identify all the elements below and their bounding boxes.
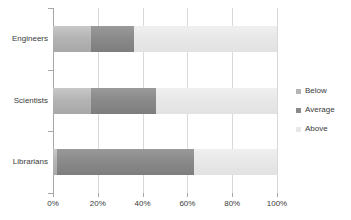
legend-swatch-icon xyxy=(296,108,301,113)
y-axis-tick xyxy=(48,70,53,71)
x-axis-label: 80% xyxy=(224,199,240,208)
category-label-scientists: Scientists xyxy=(14,96,48,106)
x-axis-labels: 0%20%40%60%80%100% xyxy=(53,199,277,213)
x-axis-tick xyxy=(98,193,99,197)
x-axis-tick xyxy=(232,193,233,197)
legend-item-below[interactable]: Below xyxy=(296,84,351,98)
x-axis-label: 60% xyxy=(179,199,195,208)
bar-segment-below xyxy=(53,26,91,52)
x-axis-tick xyxy=(143,193,144,197)
x-axis-label: 0% xyxy=(47,199,59,208)
category-label-engineers: Engineers xyxy=(12,34,48,44)
bar-segment-below xyxy=(53,88,91,114)
x-axis-ticks xyxy=(53,193,277,198)
x-axis-tick xyxy=(53,193,54,197)
stacked-bar-chart: EngineersScientistsLibrarians 0%20%40%60… xyxy=(0,0,351,220)
x-axis-tick xyxy=(277,193,278,197)
legend-label: Above xyxy=(305,124,328,134)
y-axis-tick xyxy=(48,131,53,132)
bar-segment-above xyxy=(156,88,277,114)
legend-label: Average xyxy=(305,105,335,115)
bar-segment-above xyxy=(134,26,277,52)
bar-segment-average xyxy=(57,149,194,175)
x-axis-label: 20% xyxy=(90,199,106,208)
x-axis-label: 40% xyxy=(135,199,151,208)
bar-segment-average xyxy=(91,26,134,52)
plot-area xyxy=(53,8,277,193)
x-axis-tick xyxy=(187,193,188,197)
gridline-100pct xyxy=(277,8,278,193)
bar-row xyxy=(53,26,277,52)
bars-layer xyxy=(53,8,277,193)
category-label-librarians: Librarians xyxy=(13,157,48,167)
bar-row xyxy=(53,149,277,175)
legend-item-average[interactable]: Average xyxy=(296,103,351,117)
bar-segment-above xyxy=(194,149,277,175)
bar-row xyxy=(53,88,277,114)
x-axis-label: 100% xyxy=(267,199,287,208)
legend-label: Below xyxy=(305,86,327,96)
y-axis-tick xyxy=(48,8,53,9)
legend-item-above[interactable]: Above xyxy=(296,122,351,136)
legend-swatch-icon xyxy=(296,89,301,94)
bar-segment-average xyxy=(91,88,156,114)
chart-legend: BelowAverageAbove xyxy=(296,84,351,141)
legend-swatch-icon xyxy=(296,127,301,132)
